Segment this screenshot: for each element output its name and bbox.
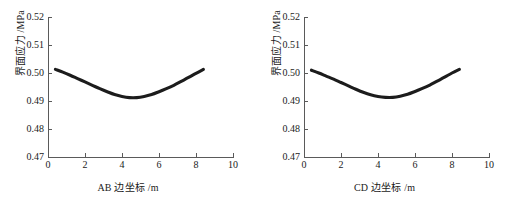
y-tick-label-right-5: 0.47: [283, 152, 301, 162]
y-tick-label-right-3: 0.49: [283, 96, 301, 106]
plot-area-right: 0.52 0.51 0.50 0.49 0.48 0.47 0 2 4 6 8 …: [304, 17, 489, 157]
y-tick-label-left-1: 0.51: [27, 40, 45, 50]
x-axis-label-right-text: CD 边坐标 /m: [354, 182, 415, 193]
chart-panel-cd: 界面应力 /MPa 0.52 0.51 0.50 0.49 0.48 0.47 …: [256, 0, 513, 204]
curve-svg-left: [48, 17, 234, 158]
data-curve-ab: [55, 69, 203, 97]
x-tick-label-left-0: 0: [46, 160, 51, 170]
x-tick-label-right-5: 10: [484, 160, 494, 170]
data-curve-cd: [311, 69, 459, 97]
x-tick-label-right-4: 8: [450, 160, 455, 170]
y-tick-label-left-2: 0.50: [27, 68, 45, 78]
x-tick-label-left-3: 6: [157, 160, 162, 170]
y-tick-label-left-4: 0.48: [27, 124, 45, 134]
y-tick-label-right-0: 0.52: [283, 12, 301, 22]
plot-area-left: 0.52 0.51 0.50 0.49 0.48 0.47 0 2 4 6 8 …: [48, 17, 233, 157]
x-tick-label-right-0: 0: [302, 160, 307, 170]
x-tick-label-right-1: 2: [339, 160, 344, 170]
y-tick-label-right-4: 0.48: [283, 124, 301, 134]
y-axis-label-right-text: 界面应力 /MPa: [271, 10, 282, 76]
y-tick-label-left-0: 0.52: [27, 12, 45, 22]
curve-svg-right: [304, 17, 490, 158]
y-tick-label-right-1: 0.51: [283, 40, 301, 50]
x-axis-label-right: CD 边坐标 /m: [256, 182, 513, 194]
x-tick-label-left-1: 2: [83, 160, 88, 170]
x-tick-label-left-5: 10: [228, 160, 238, 170]
chart-panel-ab: 界面应力 /MPa 0.52 0.51 0.50 0.49 0.48 0.47 …: [0, 0, 256, 204]
x-tick-label-right-3: 6: [413, 160, 418, 170]
x-tick-label-right-2: 4: [376, 160, 381, 170]
y-axis-label-left-text: 界面应力 /MPa: [15, 10, 26, 76]
figure-container: 界面应力 /MPa 0.52 0.51 0.50 0.49 0.48 0.47 …: [0, 0, 513, 204]
y-tick-label-left-3: 0.49: [27, 96, 45, 106]
x-tick-label-left-4: 8: [194, 160, 199, 170]
x-axis-label-left: AB 边坐标 /m: [0, 182, 256, 194]
y-tick-label-left-5: 0.47: [27, 152, 45, 162]
y-tick-label-right-2: 0.50: [283, 68, 301, 78]
x-axis-label-left-text: AB 边坐标 /m: [97, 182, 158, 193]
x-tick-label-left-2: 4: [120, 160, 125, 170]
